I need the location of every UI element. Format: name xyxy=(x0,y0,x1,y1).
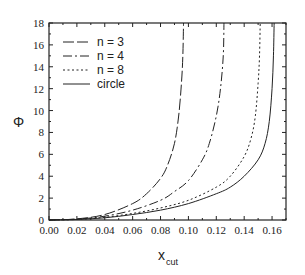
x-axis-label: xcut xyxy=(158,247,179,267)
tick-labels: 0.000.020.040.060.080.100.120.140.160246… xyxy=(33,17,282,236)
data-curves xyxy=(49,23,274,220)
y-tick-label: 14 xyxy=(33,61,45,73)
legend: n = 3 n = 4 n = 8 circle xyxy=(63,35,125,91)
y-tick-label: 12 xyxy=(33,83,44,95)
x-axis-label-main: x xyxy=(158,247,165,263)
curve-circle xyxy=(49,23,274,220)
x-tick-label: 0.10 xyxy=(179,224,199,236)
y-tick-label: 18 xyxy=(33,17,45,29)
legend-label-n3: n = 3 xyxy=(97,35,124,49)
y-tick-label: 8 xyxy=(39,126,45,138)
legend-label-circle: circle xyxy=(97,77,125,91)
x-tick-label: 0.16 xyxy=(262,224,282,236)
chart: 0.000.020.040.060.080.100.120.140.160246… xyxy=(0,0,305,275)
x-tick-label: 0.06 xyxy=(123,224,143,236)
x-axis-label-sub: cut xyxy=(166,257,179,267)
x-tick-label: 0.02 xyxy=(67,224,86,236)
y-tick-label: 0 xyxy=(39,214,45,226)
axis-ticks xyxy=(49,23,286,220)
y-axis-label: Φ xyxy=(13,114,24,130)
y-tick-label: 6 xyxy=(39,148,45,160)
x-tick-label: 0.14 xyxy=(235,224,255,236)
plot-frame xyxy=(49,23,286,220)
y-tick-label: 4 xyxy=(39,170,45,182)
x-tick-label: 0.12 xyxy=(207,224,226,236)
x-tick-label: 0.04 xyxy=(95,224,115,236)
x-tick-label: 0.08 xyxy=(151,224,171,236)
legend-label-n8: n = 8 xyxy=(97,63,124,77)
legend-label-n4: n = 4 xyxy=(97,49,124,63)
y-tick-label: 10 xyxy=(33,105,45,117)
curve-n8 xyxy=(49,23,260,220)
y-tick-label: 16 xyxy=(33,39,45,51)
y-tick-label: 2 xyxy=(39,192,45,204)
curve-n4 xyxy=(49,23,224,220)
